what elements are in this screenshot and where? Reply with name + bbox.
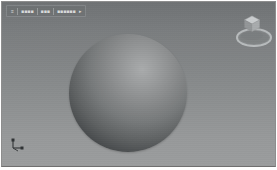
- viewcube-gizmo[interactable]: [235, 13, 269, 47]
- application-window: ≡ ■■■■ ■■■ ■■■■■■ ▸: [0, 0, 277, 170]
- breadcrumb-separator: [37, 8, 38, 15]
- breadcrumb-item-0[interactable]: ≡: [9, 7, 16, 15]
- breadcrumb-item-2[interactable]: ■■■: [39, 7, 52, 15]
- breadcrumb-item-1[interactable]: ■■■■: [19, 7, 35, 15]
- model-sphere[interactable]: [69, 34, 187, 152]
- cube-icon[interactable]: [243, 15, 261, 33]
- model-breadcrumb-bar[interactable]: ≡ ■■■■ ■■■ ■■■■■■ ▸: [6, 5, 86, 17]
- window-bottom-strip: [0, 167, 277, 170]
- chevron-right-icon[interactable]: ▸: [78, 8, 83, 14]
- axis-triad-icon: [9, 136, 27, 152]
- sphere-rim-shading: [69, 34, 187, 152]
- viewport-3d-canvas[interactable]: ≡ ■■■■ ■■■ ■■■■■■ ▸: [1, 1, 276, 167]
- breadcrumb-separator: [53, 8, 54, 15]
- breadcrumb-item-3[interactable]: ■■■■■■: [55, 7, 78, 15]
- breadcrumb-separator: [17, 8, 18, 15]
